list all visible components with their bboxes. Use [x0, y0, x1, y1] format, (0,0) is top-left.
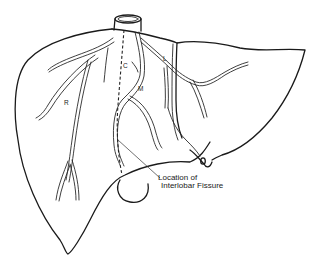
gallbladder-bulge: [118, 180, 149, 202]
label-left-vein: L: [163, 55, 167, 62]
caudate-vein: [132, 62, 138, 72]
liver-outline-top: [112, 29, 305, 160]
right-hepatic-vein-b: [49, 42, 114, 72]
right-hepatic-vein: [48, 38, 113, 70]
liver-outline-right-lobe: [15, 29, 210, 254]
falciform-line: [176, 43, 182, 138]
right-hepatic-vein-branch-down: [36, 55, 95, 118]
left-vein-branch-2-b: [167, 66, 168, 108]
left-vein-branch-2: [164, 68, 165, 108]
label-caudate: C: [123, 62, 128, 69]
right-vein-short-branch: [104, 48, 108, 82]
middle-hepatic-vein-b: [117, 32, 144, 166]
ivc-left-wall: [114, 19, 115, 30]
label-right-vein: R: [64, 99, 69, 106]
ivc-lumen: [118, 17, 138, 22]
annotation-leader-line: [118, 140, 160, 178]
liver-diagram-svg: R C M L Location of Interlobar Fissure: [0, 0, 319, 272]
annotation-line-2: Interlobar Fissure: [161, 181, 224, 190]
liver-diagram: R C M L Location of Interlobar Fissure: [0, 0, 319, 272]
label-middle-vein: M: [138, 85, 143, 92]
left-hepatic-vein-b: [141, 42, 248, 86]
left-hepatic-vein: [141, 38, 248, 83]
right-vein-fork-left: [56, 161, 68, 200]
